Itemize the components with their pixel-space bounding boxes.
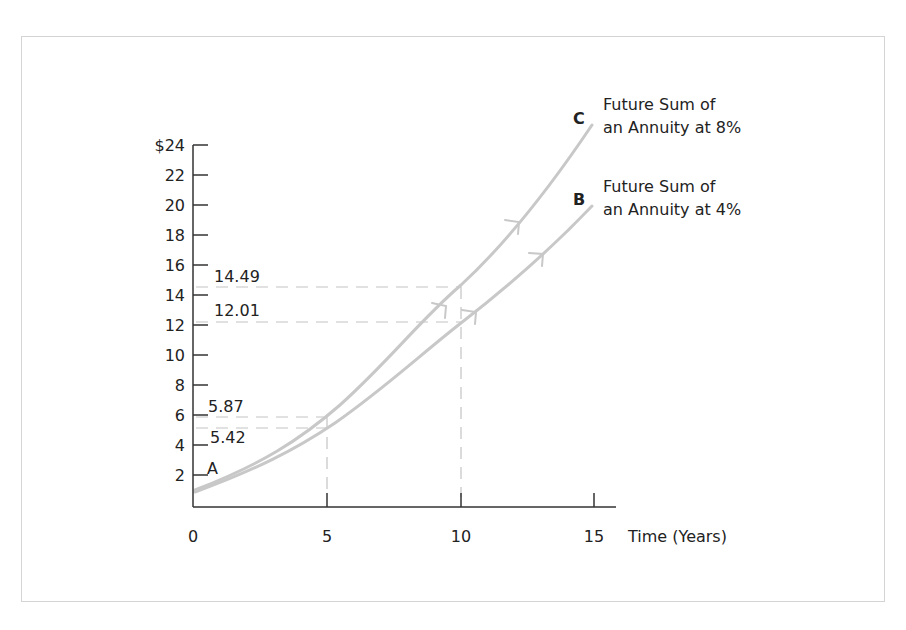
y-tick-14: 14	[165, 286, 185, 305]
x-tick-5: 5	[322, 527, 332, 546]
x-axis-title: Time (Years)	[627, 527, 727, 546]
x-tick-labels: 0 5 10 15	[188, 527, 604, 546]
annotation-12-01: 12.01	[214, 301, 260, 320]
legend-c-line1: Future Sum of	[603, 95, 716, 114]
curve-b-letter: B	[573, 190, 585, 209]
annotation-5-87: 5.87	[208, 397, 244, 416]
annotation-5-42: 5.42	[210, 428, 246, 447]
legend-b-line1: Future Sum of	[603, 177, 716, 196]
y-tick-6: 6	[175, 406, 185, 425]
y-tick-18: 18	[165, 226, 185, 245]
x-tick-15: 15	[584, 527, 604, 546]
annuity-chart: $24 22 20 18 16 14 12 10 8 6 4 2 0 5 10 …	[0, 0, 906, 630]
annotation-14-49: 14.49	[214, 267, 260, 286]
arrowheads	[432, 220, 543, 324]
y-tick-4: 4	[175, 436, 185, 455]
y-tick-labels: $24 22 20 18 16 14 12 10 8 6 4 2	[154, 136, 185, 485]
y-tick-8: 8	[175, 376, 185, 395]
legend-c: Future Sum of an Annuity at 8%	[603, 95, 741, 137]
axes	[193, 145, 616, 507]
legend-b: Future Sum of an Annuity at 4%	[603, 177, 741, 219]
curve-b-4pct	[195, 206, 592, 492]
point-a-label: A	[207, 459, 218, 478]
y-tick-16: 16	[165, 256, 185, 275]
y-tick-2: 2	[175, 466, 185, 485]
legend-c-line2: an Annuity at 8%	[603, 118, 741, 137]
y-tick-10: 10	[165, 346, 185, 365]
y-tick-24: $24	[154, 136, 185, 155]
x-tick-10: 10	[451, 527, 471, 546]
legend-b-line2: an Annuity at 4%	[603, 200, 741, 219]
x-tick-0: 0	[188, 527, 198, 546]
curve-c-letter: C	[573, 109, 585, 128]
y-tick-20: 20	[165, 196, 185, 215]
y-tick-12: 12	[165, 316, 185, 335]
y-tick-22: 22	[165, 166, 185, 185]
